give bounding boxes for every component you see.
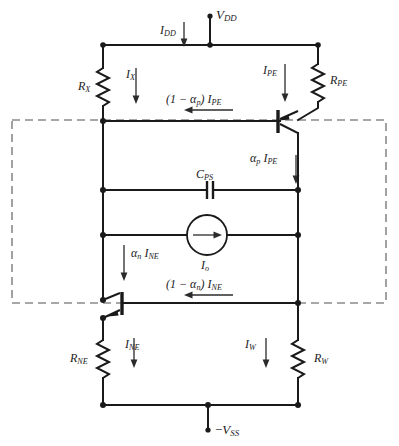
- npn-emitter-arrowhead: [108, 311, 119, 317]
- resistor-rne-body: [97, 340, 109, 378]
- npn-collector-node-dot: [100, 297, 106, 303]
- label-cps: CPS: [196, 168, 213, 182]
- dashed-boundary-box: [12, 120, 386, 303]
- resistor-rx-body: [97, 68, 109, 106]
- alpha-n-ine-current-arrow: [121, 245, 128, 281]
- vdd-terminal-dot: [207, 13, 212, 18]
- label-rw: RW: [314, 352, 328, 366]
- label-vdd: VDD: [216, 8, 237, 23]
- label-alpha-n-ine: αn INE: [131, 247, 159, 261]
- resistor-rw-body: [292, 340, 304, 378]
- bottom-right-corner-dot: [295, 402, 301, 408]
- right-node-dot-cps: [295, 187, 301, 193]
- label-one-minus-alpha-n-ine: (1 − αn) INE: [166, 278, 222, 292]
- label-one-minus-alpha-p-ipe: (1 − αp) IPE: [166, 93, 221, 107]
- bottom-left-corner-dot: [100, 402, 106, 408]
- label-ine: INE: [125, 338, 139, 352]
- label-idd: IDD: [160, 24, 176, 38]
- vss-rail-junction-dot: [205, 402, 211, 408]
- label-iw: IW: [245, 338, 256, 352]
- one-minus-alpha-n-ine-arrow: [184, 292, 233, 299]
- left-node-dot-io: [100, 232, 106, 238]
- label-rpe: RPE: [330, 74, 347, 88]
- circuit-diagram-figure: VDD IDD RX IX IPE RPE (1 − αp) IPE αp IP…: [0, 0, 399, 446]
- label-vss: −VSS: [215, 423, 239, 438]
- iw-current-arrow: [263, 338, 270, 368]
- pnp-collector-lead: [280, 124, 298, 142]
- label-ix: IX: [126, 68, 135, 82]
- left-node-dot-cps: [100, 187, 106, 193]
- ipe-current-arrow: [282, 64, 289, 102]
- one-minus-alpha-p-ipe-arrow: [184, 107, 233, 114]
- vss-terminal-dot: [205, 427, 210, 432]
- vdd-rail-junction-dot: [207, 42, 213, 48]
- label-rx: RX: [78, 80, 90, 94]
- label-ipe: IPE: [263, 64, 277, 78]
- idd-current-arrow: [181, 22, 188, 47]
- resistor-rpe-body: [312, 64, 324, 102]
- label-io: Io: [201, 259, 209, 273]
- label-rne: RNE: [70, 352, 88, 366]
- rpe-to-pnp-emitter-lead: [298, 102, 318, 120]
- schematic-canvas: [0, 0, 399, 446]
- right-node-dot-io: [295, 232, 301, 238]
- label-alpha-p-ipe: αp IPE: [250, 152, 277, 166]
